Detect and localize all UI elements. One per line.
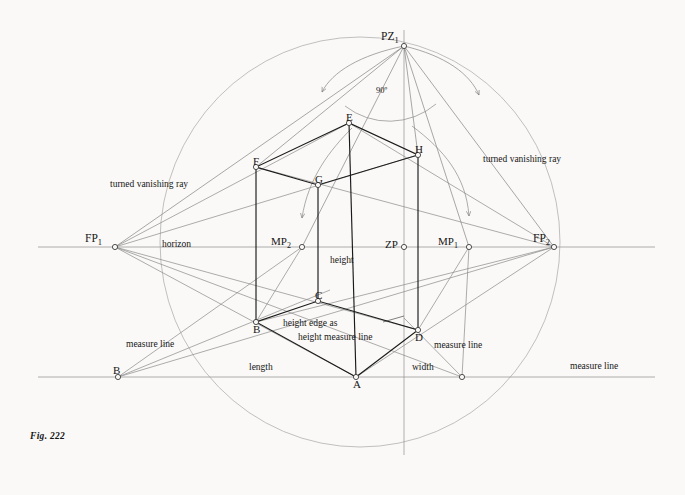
point-marker-d-measure — [459, 374, 464, 379]
label-zp: ZP — [385, 239, 398, 250]
label-fp1: FP1 — [85, 233, 102, 247]
rotation-arrow-left — [322, 46, 404, 92]
rotation-arrow-right — [404, 46, 479, 95]
label-angle-90: 90º — [376, 86, 387, 95]
label-measure-line-bottom-right: measure line — [570, 362, 618, 372]
label-mp2: MP2 — [271, 236, 291, 250]
right-angle-arc — [345, 104, 436, 121]
label-pz1: PZ1 — [381, 31, 399, 45]
label-turned-vanishing-ray-left: turned vanishing ray — [110, 180, 188, 190]
label-vertex-h: H — [415, 144, 423, 155]
label-height: height — [330, 256, 354, 266]
label-vertex-b: B — [253, 324, 260, 335]
label-length: length — [249, 363, 273, 373]
drop-arc-to-mp1 — [412, 126, 469, 216]
label-height-edge-line1: height edge as — [283, 319, 337, 329]
point-marker-zp — [401, 244, 406, 249]
label-height-edge-line2: height measure line — [298, 333, 372, 343]
point-marker-pz1 — [401, 43, 406, 48]
point-marker-mp2 — [299, 244, 304, 249]
perspective-diagram-svg — [0, 0, 685, 495]
point-marker-fp2 — [551, 244, 556, 249]
label-mp1: MP1 — [438, 236, 458, 250]
label-fp2: FP2 — [533, 233, 550, 247]
figure-caption: Fig. 222 — [30, 432, 65, 442]
point-marker-fp1 — [112, 244, 117, 249]
label-vertex-g: G — [315, 174, 323, 185]
point-marker-mp1 — [466, 244, 471, 249]
label-turned-vanishing-ray-right: turned vanishing ray — [483, 155, 561, 165]
label-vertex-c: C — [315, 290, 322, 301]
label-measure-line-right-upper: measure line — [434, 341, 482, 351]
figure-canvas: PZ1 90º FP1 FP2 MP2 ZP MP1 A B C D E F G… — [0, 0, 685, 495]
label-vertex-a: A — [353, 379, 361, 390]
label-vertex-d: D — [415, 332, 423, 343]
label-measure-line-left: measure line — [126, 340, 174, 350]
label-vertex-f: F — [253, 156, 259, 167]
label-measure-point-b: B — [113, 365, 120, 376]
label-vertex-e: E — [346, 112, 353, 123]
measuring-point-rays — [118, 247, 469, 377]
label-width: width — [412, 363, 434, 373]
label-horizon: horizon — [162, 240, 191, 250]
